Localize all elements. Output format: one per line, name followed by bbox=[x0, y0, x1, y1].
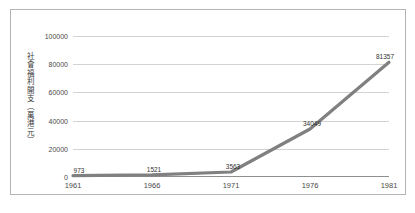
series-line-chart bbox=[73, 36, 389, 177]
x-axis-tick-label: 1976 bbox=[302, 181, 319, 190]
y-axis-title: 社會福利開支（萬港元） bbox=[19, 52, 33, 144]
y-axis-tick-label: 60000 bbox=[49, 89, 68, 96]
data-point-label: 81357 bbox=[376, 53, 394, 60]
x-axis-tick-label: 1981 bbox=[381, 181, 398, 190]
x-axis-tick-label: 1971 bbox=[223, 181, 240, 190]
x-axis-tick-label: 1961 bbox=[65, 181, 82, 190]
y-axis-tick-label: 0 bbox=[64, 174, 68, 181]
y-axis-tick-label: 100000 bbox=[45, 33, 68, 40]
y-axis-tick-label: 80000 bbox=[49, 61, 68, 68]
y-axis-tick-label: 40000 bbox=[49, 117, 68, 124]
x-axis-tick-label: 1966 bbox=[144, 181, 161, 190]
data-point-label: 3563 bbox=[226, 163, 240, 170]
series-line-path bbox=[73, 62, 389, 175]
data-point-label: 1521 bbox=[147, 166, 161, 173]
data-point-label: 34049 bbox=[303, 120, 321, 127]
data-point-label: 973 bbox=[74, 167, 85, 174]
plot-area: 020000400006000080000100000 196119661971… bbox=[73, 36, 389, 177]
y-axis-tick-label: 20000 bbox=[49, 145, 68, 152]
chart-frame: 社會福利開支（萬港元） 020000400006000080000100000 … bbox=[10, 9, 406, 195]
